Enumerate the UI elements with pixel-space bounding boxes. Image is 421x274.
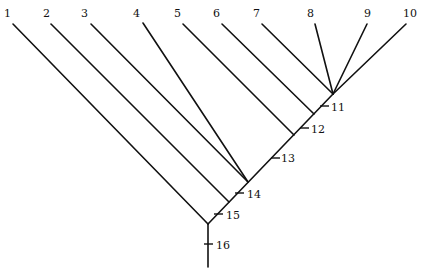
branch-taxon-1 (13, 24, 208, 224)
node-label-14: 14 (247, 188, 261, 201)
branch-taxon-7 (262, 24, 333, 94)
taxon-label-4: 4 (133, 7, 140, 20)
taxon-label-10: 10 (403, 7, 417, 20)
taxon-label-8: 8 (307, 7, 314, 20)
branch-taxon-3 (91, 24, 248, 182)
branch-taxon-6 (222, 24, 314, 114)
cladogram: 1 2 3 4 5 6 7 8 9 10 11 12 13 14 15 16 (0, 0, 421, 274)
taxon-label-2: 2 (43, 7, 50, 20)
node-label-15: 15 (226, 209, 240, 222)
taxon-label-6: 6 (213, 7, 220, 20)
taxon-label-7: 7 (253, 7, 260, 20)
node-label-16: 16 (216, 239, 230, 252)
node-label-13: 13 (281, 152, 295, 165)
node-label-11: 11 (331, 101, 345, 114)
taxon-label-3: 3 (81, 7, 88, 20)
branch-taxon-9 (333, 24, 367, 94)
taxon-label-5: 5 (174, 7, 181, 20)
node-label-12: 12 (311, 123, 325, 136)
branch-taxon-4 (143, 23, 248, 182)
branch-taxon-10 (333, 24, 406, 94)
branch-taxon-8 (315, 24, 333, 94)
taxon-label-1: 1 (4, 7, 11, 20)
taxon-label-9: 9 (364, 7, 371, 20)
